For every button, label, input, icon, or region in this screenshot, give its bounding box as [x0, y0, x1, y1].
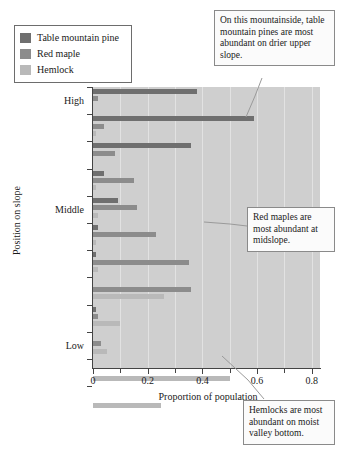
callout-leader-lines [0, 0, 341, 471]
chart-figure: Table mountain pineRed mapleHemlock 00.2… [0, 0, 341, 471]
